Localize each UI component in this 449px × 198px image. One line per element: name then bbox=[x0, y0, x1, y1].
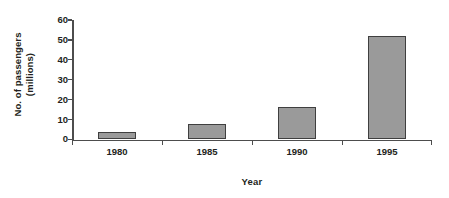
plot-area bbox=[72, 20, 432, 141]
x-axis-title: Year bbox=[72, 176, 432, 187]
y-tick-mark bbox=[68, 59, 72, 60]
x-tick-mark bbox=[252, 140, 253, 145]
y-axis-title: No. of passengers (millions) bbox=[0, 0, 46, 148]
y-axis-title-line1: No. of passengers bbox=[12, 32, 23, 116]
y-axis-line bbox=[72, 20, 74, 141]
y-tick-mark bbox=[68, 119, 72, 120]
bar bbox=[98, 132, 136, 139]
y-tick-mark bbox=[68, 19, 72, 20]
y-tick-label: 60 bbox=[44, 15, 68, 25]
y-tick-mark bbox=[68, 79, 72, 80]
x-tick-label: 1990 bbox=[286, 146, 307, 158]
y-tick-label: 0 bbox=[44, 134, 68, 144]
bar-chart: No. of passengers (millions) 01020304050… bbox=[0, 0, 449, 198]
x-tick-mark bbox=[342, 140, 343, 145]
bar bbox=[188, 124, 226, 140]
x-tick-mark bbox=[162, 140, 163, 145]
y-tick-label: 30 bbox=[44, 75, 68, 85]
y-tick-label: 10 bbox=[44, 115, 68, 125]
x-tick-label: 1995 bbox=[376, 146, 397, 158]
y-tick-label: 50 bbox=[44, 35, 68, 45]
bar bbox=[278, 107, 316, 140]
x-tick-mark bbox=[431, 140, 432, 145]
y-axis-tick-labels: 0102030405060 bbox=[44, 14, 68, 148]
y-tick-mark bbox=[68, 39, 72, 40]
x-tick-label: 1985 bbox=[196, 146, 217, 158]
x-tick-label: 1980 bbox=[106, 146, 127, 158]
x-tick-mark bbox=[72, 140, 73, 145]
y-tick-mark bbox=[68, 99, 72, 100]
bar bbox=[368, 36, 406, 139]
y-axis-title-line2: (millions) bbox=[23, 52, 34, 95]
x-axis-tick-labels: 1980198519901995 bbox=[72, 146, 432, 162]
y-tick-label: 40 bbox=[44, 55, 68, 65]
y-tick-label: 20 bbox=[44, 95, 68, 105]
